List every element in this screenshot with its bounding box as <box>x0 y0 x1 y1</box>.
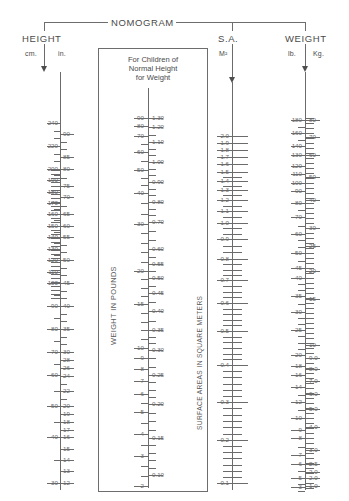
tick-mark <box>233 320 242 321</box>
tick-label: 0.10 <box>152 472 178 478</box>
tick-mark <box>306 378 314 379</box>
tick-mark <box>306 478 314 479</box>
height-arrow-icon <box>41 66 47 72</box>
tick-mark <box>51 186 60 187</box>
tick-mark <box>306 413 314 414</box>
tick-mark <box>141 185 148 186</box>
tick-mark <box>141 466 148 467</box>
tick-mark <box>298 471 305 472</box>
tick-mark <box>141 403 148 404</box>
tick-mark <box>233 421 242 422</box>
tick-mark <box>233 427 242 428</box>
tick-mark <box>306 163 314 164</box>
tick-mark <box>306 193 314 194</box>
tick-mark <box>54 391 60 392</box>
tick-mark <box>306 188 314 189</box>
tick-mark <box>149 413 156 414</box>
tick-mark <box>306 473 314 474</box>
tick-mark <box>233 186 242 187</box>
tick-mark <box>223 396 232 397</box>
panel-title-line2: Normal Height <box>99 64 207 73</box>
tick-mark <box>141 161 148 162</box>
tick-mark <box>298 127 305 128</box>
tick-mark <box>223 415 232 416</box>
tick-mark <box>306 238 314 239</box>
tick-mark <box>223 286 232 287</box>
tick-mark <box>141 262 148 263</box>
tick-mark <box>223 384 232 385</box>
tick-label: 30 <box>118 221 144 227</box>
tick-mark <box>233 275 242 276</box>
tick-mark <box>141 252 148 253</box>
tick-mark <box>51 190 60 191</box>
tick-mark <box>51 290 60 291</box>
tick-mark <box>61 142 67 143</box>
tick-mark <box>306 468 314 469</box>
tick-mark <box>233 195 242 196</box>
tick-mark <box>233 228 242 229</box>
tick-mark <box>223 320 232 321</box>
tick-mark <box>223 452 232 453</box>
tick-label: 50 <box>32 403 58 409</box>
tick-label: 0.35 <box>152 327 178 333</box>
tick-mark <box>233 483 248 484</box>
tick-mark <box>233 217 242 218</box>
tick-mark <box>149 215 156 216</box>
tick-mark <box>306 233 314 234</box>
tick-mark <box>141 476 148 477</box>
tick-label: 22 <box>63 388 89 394</box>
tick-mark <box>223 264 232 265</box>
tick-mark <box>233 359 242 360</box>
tick-label: 40 <box>118 190 144 196</box>
tick-mark <box>306 328 314 329</box>
tick-label: 240 <box>32 120 58 126</box>
tick-mark <box>61 178 67 179</box>
tick-label: 26 <box>63 365 89 371</box>
tick-mark <box>141 243 148 244</box>
tick-mark <box>149 468 156 469</box>
tick-mark <box>223 270 232 271</box>
tick-mark <box>233 181 248 182</box>
tick-label: 30 <box>276 309 302 315</box>
tick-mark <box>51 270 60 271</box>
tick-mark <box>223 348 232 349</box>
tick-mark <box>233 465 242 466</box>
tick-mark <box>298 318 305 319</box>
tick-label: 2.0 <box>309 469 335 475</box>
tick-mark <box>51 210 60 211</box>
tick-mark <box>233 143 248 144</box>
tick-mark <box>61 344 67 345</box>
tick-mark <box>306 353 314 354</box>
tick-label: 45 <box>63 280 89 286</box>
tick-mark <box>306 438 314 439</box>
tick-mark <box>306 393 314 394</box>
tick-mark <box>61 314 67 315</box>
tick-mark <box>233 331 248 332</box>
tick-mark <box>141 279 148 280</box>
tick-mark <box>223 408 232 409</box>
tick-mark <box>223 390 232 391</box>
tick-mark <box>141 203 148 204</box>
tick-label: 80 <box>32 326 58 332</box>
tick-mark <box>233 408 242 409</box>
tick-mark <box>233 206 242 207</box>
panel-title-line1: For Children of <box>99 55 207 64</box>
tick-label: 1.6 <box>203 161 229 167</box>
tick-mark <box>149 343 156 344</box>
tick-label: 1.2 <box>203 197 229 203</box>
tick-mark <box>149 460 156 461</box>
tick-label: 30 <box>32 480 58 486</box>
tick-label: 50 <box>276 250 302 256</box>
tick-mark <box>233 477 242 478</box>
tick-mark <box>51 198 60 199</box>
tick-mark <box>51 274 60 275</box>
tick-mark <box>51 282 60 283</box>
tick-label: 0.4 <box>203 362 229 368</box>
tick-label: 0.7 <box>203 277 229 283</box>
tick-mark <box>298 284 305 285</box>
tick-label: 28 <box>63 357 89 363</box>
tick-label: 200 <box>32 166 58 172</box>
tick-mark <box>223 252 232 253</box>
tick-mark <box>223 314 232 315</box>
tick-label: 70 <box>118 133 144 139</box>
